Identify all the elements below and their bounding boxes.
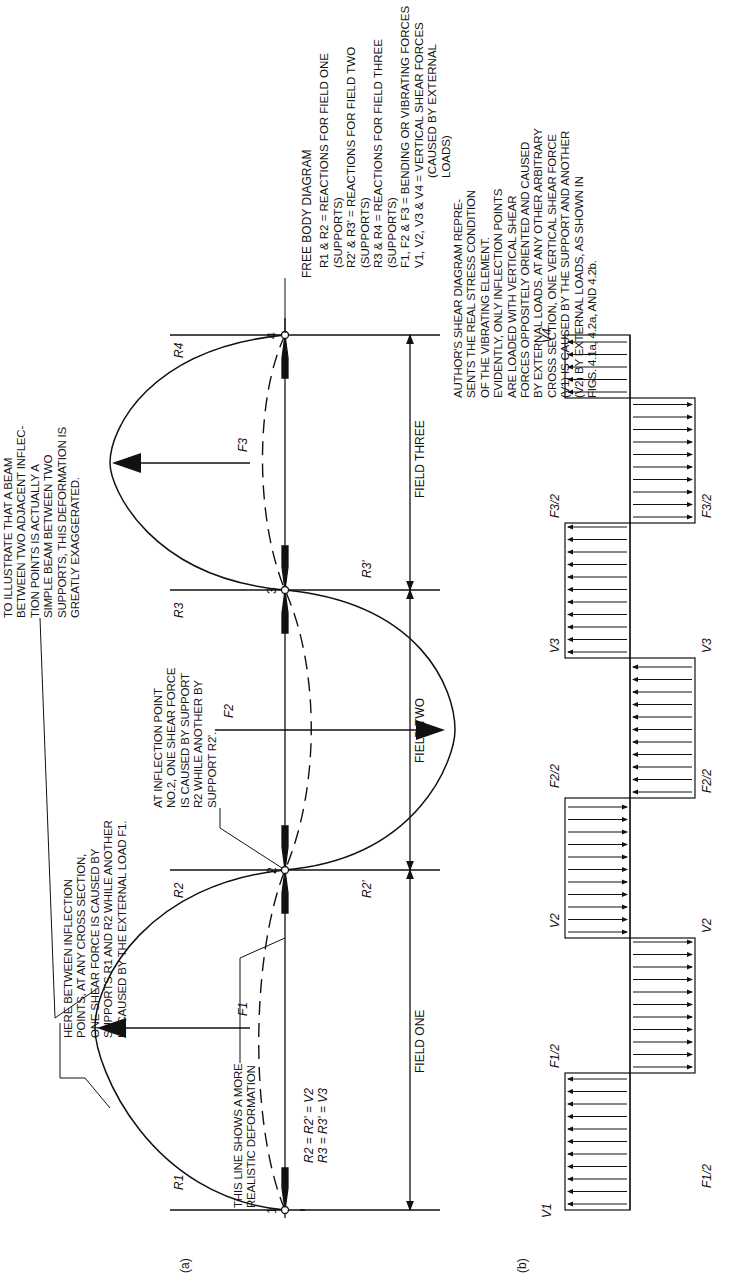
shear-v3-left: V3 (548, 638, 562, 653)
shear-f2-half-top: F2/2 (548, 764, 562, 788)
inflection-point-1 (282, 1207, 289, 1214)
point-4-label: 4 (265, 332, 279, 339)
reaction-r1-label: R1 (172, 1175, 186, 1190)
annotation-inflection-point-2: AT INFLECTION POINT NO.2, ONE SHEAR FORC… (152, 668, 219, 808)
reaction-r3-label: R3 (172, 603, 186, 618)
figure-canvas: HERE BETWEEN INFLECTION POINTS, AT ANY C… (0, 0, 735, 1278)
reaction-r2-label: R2 (172, 883, 186, 898)
shear-f3-half-bottom: F3/2 (700, 494, 714, 518)
legend-list: R1 & R2 = REACTIONS FOR FIELD ONE (SUPPO… (318, 0, 453, 268)
panel-label-a: (a) (178, 1258, 192, 1273)
inflection-point-2 (282, 867, 289, 874)
force-f2-label: F2 (222, 704, 236, 718)
shear-f2-half-bottom: F2/2 (700, 769, 714, 793)
shear-v2-left: V2 (548, 913, 562, 928)
shear-v3-right: V3 (700, 638, 714, 653)
panel-label-b: (b) (515, 1258, 529, 1273)
reaction-arrow-r4 (282, 335, 288, 378)
shear-f3-half-top: F3/2 (548, 494, 562, 518)
point-3-label: 3 (265, 587, 279, 594)
legend-item: R3 & R4 = REACTIONS FOR FIELD THREE (SUP… (372, 0, 399, 268)
field-two-label: FIELD TWO (413, 698, 427, 763)
force-f1-label: F1 (236, 1002, 250, 1016)
equations: R2 = R2' = V2 R3 = R3' = V3 (302, 1088, 330, 1163)
reaction-r4-label: R4 (172, 343, 186, 358)
shear-v1-label: V1 (540, 1203, 554, 1218)
field-one-label: FIELD ONE (413, 1010, 427, 1073)
point-1-label: 1 (265, 1207, 279, 1214)
reaction-r2p-label: R2' (360, 880, 374, 898)
shear-v4-label: V4 (540, 328, 554, 343)
legend-title: FREE BODY DIAGRAM (300, 150, 314, 278)
reaction-r3p-label: R3' (360, 560, 374, 578)
legend-item: V1, V2, V3 & V4 = VERTICAL SHEAR FORCES (413, 0, 427, 268)
equation-2: R3 = R3' = V3 (316, 1088, 330, 1163)
field-three-label: FIELD THREE (413, 420, 427, 498)
annotation-between-inflection: HERE BETWEEN INFLECTION POINTS, AT ANY C… (62, 820, 129, 1038)
shear-v2-right: V2 (700, 918, 714, 933)
leader-realistic-deformation (240, 938, 285, 1063)
legend-item: (CAUSED BY EXTERNAL LOADS) (426, 0, 453, 268)
legend-item: R2' & R3' = REACTIONS FOR FIELD TWO (SUP… (345, 0, 372, 268)
inflection-point-3 (282, 587, 289, 594)
equation-1: R2 = R2' = V2 (302, 1088, 316, 1163)
annotation-realistic-deformation: THIS LINE SHOWS A MORE REALISTIC DEFORMA… (232, 1064, 259, 1209)
force-f3-head (112, 453, 141, 473)
legend-item: R1 & R2 = REACTIONS FOR FIELD ONE (SUPPO… (318, 0, 345, 268)
point-2-label: 2 (265, 867, 279, 874)
leader-inflection-2 (220, 808, 282, 868)
annotation-authors-shear-diagram: AUTHOR'S SHEAR DIAGRAM REPRE- SENTS THE … (452, 128, 599, 398)
shear-f1-half-top: F1/2 (548, 1044, 562, 1068)
annotation-simple-beam: TO ILLUSTRATE THAT A BEAM BETWEEN TWO AD… (2, 426, 82, 618)
force-f3-label: F3 (236, 438, 250, 452)
shear-f1-half-bottom: F1/2 (700, 1164, 714, 1188)
legend-item: F1, F2 & F3 = BENDING OR VIBRATING FORCE… (399, 0, 413, 268)
